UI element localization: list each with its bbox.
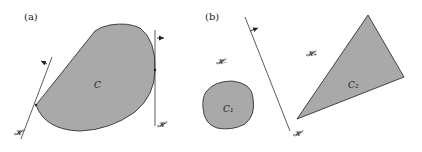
convex-set-c2 [297, 15, 404, 119]
normal-arrow-left-icon [41, 61, 47, 64]
halfspace-minus-label: 𝓗₋ [216, 57, 227, 66]
hyperplane-label: 𝓗 [293, 129, 304, 138]
supporting-hyperplane-figure: (a) C 𝓗 𝓗 (b) 𝓗₋ 𝓗₊ 𝓗 C₁ C₂ [0, 0, 422, 152]
set-c1-label: C₁ [223, 104, 234, 114]
hyperplane-right-label: 𝓗 [157, 120, 168, 129]
set-c2-label: C₂ [348, 80, 359, 90]
panel-b: (b) 𝓗₋ 𝓗₊ 𝓗 C₁ C₂ [203, 11, 404, 138]
normal-arrow-icon [250, 28, 258, 31]
panel-b-label: (b) [205, 11, 219, 22]
panel-a: (a) C 𝓗 𝓗 [14, 11, 168, 139]
tangent-point-right [154, 69, 156, 71]
convex-set-c [36, 24, 155, 131]
set-c-label: C [94, 80, 101, 90]
panel-a-label: (a) [24, 11, 38, 22]
halfspace-plus-label: 𝓗₊ [306, 49, 317, 58]
tangent-point-left [35, 104, 37, 106]
